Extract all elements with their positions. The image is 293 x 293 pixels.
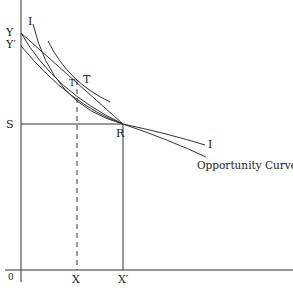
opportunity-curve: [21, 46, 206, 157]
x-axis-label-x: X: [72, 274, 80, 285]
indifference-label-top: I: [28, 16, 32, 27]
point-label-t-prime: T′: [69, 79, 77, 88]
opportunity-curve-label: Opportunity Curve: [197, 160, 293, 171]
indifference-label-right: I: [208, 139, 212, 150]
point-label-t: T: [83, 74, 90, 85]
x-axis-label-x-prime: X′: [118, 274, 128, 285]
point-label-r: R: [116, 128, 124, 139]
y-axis-label-y-prime: Y′: [6, 39, 16, 50]
origin-label: 0: [8, 273, 14, 282]
diagram-svg: [0, 0, 293, 293]
diagram-canvas: Y Y′ I T T′ S R I Opportunity Curve 0 X …: [0, 0, 293, 293]
y-axis-label-y: Y: [6, 27, 13, 38]
point-label-s: S: [6, 119, 14, 130]
indifference-curve-upper: [48, 41, 110, 102]
